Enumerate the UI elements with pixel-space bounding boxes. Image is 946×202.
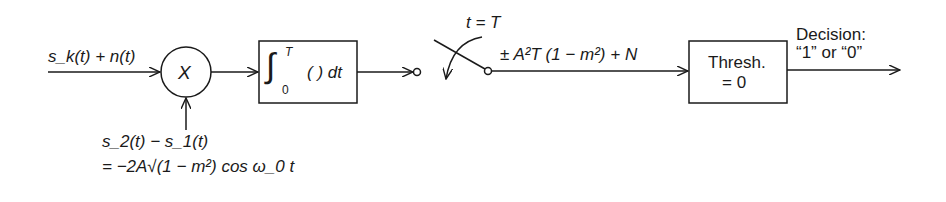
- reference-line1-label: s_2(t) − s_1(t): [102, 133, 208, 150]
- integral-lower-limit: 0: [282, 84, 289, 96]
- threshold-line2: = 0: [722, 74, 746, 91]
- integral-sign: ∫: [266, 48, 275, 82]
- reference-line2-label: = −2A√(1 − m²) cos ω_0 t: [102, 158, 294, 175]
- switch-input-terminal: [414, 69, 421, 76]
- integrand-label: ( ) dt: [307, 64, 342, 81]
- decision-line1: Decision:: [796, 26, 866, 43]
- sampler-label: t = T: [466, 14, 500, 31]
- threshold-block: [689, 41, 787, 103]
- input-signal-label: s_k(t) + n(t): [48, 48, 135, 65]
- sampling-arrow: [446, 37, 482, 79]
- switch-output-terminal: [485, 68, 492, 75]
- threshold-line1: Thresh.: [708, 54, 766, 71]
- switch-lever: [434, 40, 485, 69]
- multiplier-symbol: X: [178, 63, 191, 82]
- decision-line2: “1” or “0”: [796, 44, 862, 61]
- integral-upper-limit: T: [285, 46, 292, 58]
- sample-output-label: ± A²T (1 − m²) + N: [500, 46, 637, 63]
